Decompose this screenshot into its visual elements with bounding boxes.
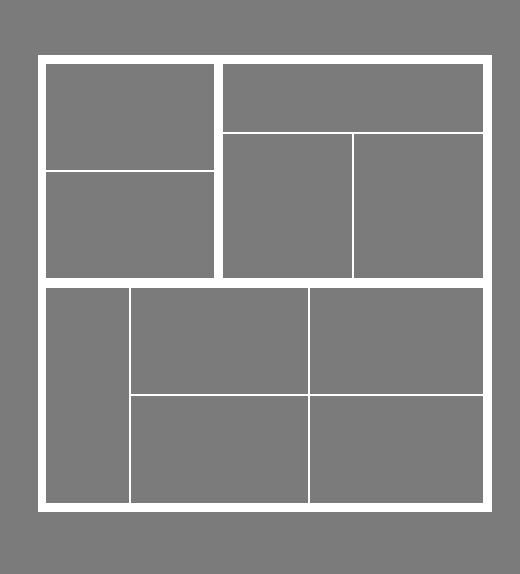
panel-top-right-lower-left xyxy=(223,134,352,278)
panel-top-left-lower xyxy=(46,172,214,278)
panel-top-right-upper xyxy=(223,64,483,132)
panel-bottom-right-upper xyxy=(310,288,483,394)
panel-bottom-middle-lower xyxy=(131,396,308,503)
panel-bottom-right-lower xyxy=(310,396,483,503)
panel-bottom-middle-upper xyxy=(131,288,308,394)
panel-top-right-lower-right xyxy=(354,134,483,278)
panel-bottom-left-tall xyxy=(46,288,129,503)
panel-top-left-upper xyxy=(46,64,214,170)
